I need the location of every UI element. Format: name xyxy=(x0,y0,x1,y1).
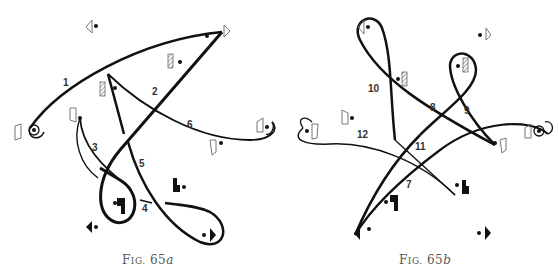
caption-fig-65a: FIG. 65a xyxy=(122,253,174,267)
figure-icon-b-solid-4 xyxy=(477,226,491,240)
path-6 xyxy=(108,74,275,140)
diagram-canvas xyxy=(0,0,559,280)
caption-number: 65 xyxy=(427,253,443,267)
figure-icon-b-outline-right xyxy=(493,138,506,153)
caption-number: 65 xyxy=(150,253,166,267)
figure-65b xyxy=(298,19,552,240)
figure-icon-b-solid-3 xyxy=(354,226,371,240)
path-label-10: 10 xyxy=(368,84,379,94)
figure-icon-outline-mid xyxy=(210,140,223,155)
figure-icon-b-curl-left xyxy=(305,124,318,139)
caption-suffix: a xyxy=(166,253,174,267)
caption-prefix: F xyxy=(122,253,131,267)
path-label-6: 6 xyxy=(187,120,193,130)
figure-icon-b-solid-1 xyxy=(455,180,469,194)
figure-icon-top-left xyxy=(86,20,98,33)
caption-smallcaps: IG. xyxy=(131,256,146,266)
figure-icon-hatched-1 xyxy=(168,54,182,68)
figure-icon-outline-left xyxy=(70,108,82,122)
figure-icon-solid-1 xyxy=(173,178,186,192)
path-10 xyxy=(358,19,495,145)
figure-icon-solid-2 xyxy=(113,198,125,214)
figure-icon-solid-3 xyxy=(86,221,98,233)
figure-icon-b-outline-left xyxy=(342,110,354,124)
path-label-8: 8 xyxy=(430,103,436,113)
figure-icon-solid-4 xyxy=(202,228,216,242)
figure-icon-outline-right xyxy=(257,118,269,132)
path-label-5: 5 xyxy=(139,159,145,169)
spiral-curve xyxy=(29,128,44,138)
path-label-2: 2 xyxy=(152,87,158,97)
caption-suffix: b xyxy=(443,253,451,267)
caption-smallcaps: IG. xyxy=(408,256,423,266)
path-1 xyxy=(30,32,222,128)
path-label-4: 4 xyxy=(142,204,148,214)
path-label-9: 9 xyxy=(464,106,470,116)
path-label-11: 11 xyxy=(415,142,426,152)
path-label-3: 3 xyxy=(92,143,98,153)
figure-icon-b-hatched-2 xyxy=(456,58,468,72)
caption-prefix: F xyxy=(399,253,408,267)
caption-fig-65b: FIG. 65b xyxy=(399,253,451,267)
path-5 xyxy=(108,74,124,134)
curl-arrow-b xyxy=(300,118,312,128)
path-label-12: 12 xyxy=(357,130,368,140)
figure-icon-b-top-right xyxy=(478,28,491,40)
path-label-7: 7 xyxy=(406,180,412,190)
path-12 xyxy=(298,128,455,195)
path-label-1: 1 xyxy=(63,78,69,88)
